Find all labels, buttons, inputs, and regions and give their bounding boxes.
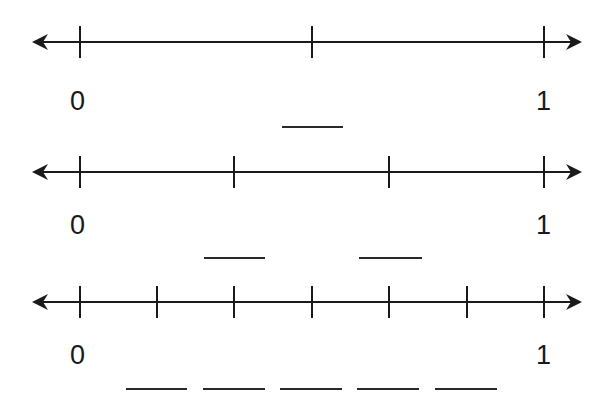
line2-answer-blank-1[interactable] bbox=[204, 257, 265, 259]
number-line-halves bbox=[32, 26, 582, 58]
line3-answer-blank-2[interactable] bbox=[203, 388, 265, 390]
line2-answer-blank-2[interactable] bbox=[359, 257, 422, 259]
line3-answer-blank-4[interactable] bbox=[357, 388, 419, 390]
line3-label-zero: 0 bbox=[70, 342, 85, 369]
line2-label-one: 1 bbox=[536, 212, 551, 239]
number-line-thirds bbox=[32, 156, 582, 188]
line3-label-one: 1 bbox=[536, 342, 551, 369]
line3-answer-blank-1[interactable] bbox=[126, 388, 187, 390]
line2-label-zero: 0 bbox=[70, 212, 85, 239]
line3-answer-blank-3[interactable] bbox=[280, 388, 342, 390]
line1-label-zero: 0 bbox=[70, 88, 85, 115]
line1-label-one: 1 bbox=[536, 88, 551, 115]
number-lines-canvas bbox=[0, 0, 614, 398]
number-line-sixths bbox=[32, 286, 582, 318]
line3-answer-blank-5[interactable] bbox=[435, 388, 497, 390]
line1-answer-blank-1[interactable] bbox=[282, 126, 343, 128]
